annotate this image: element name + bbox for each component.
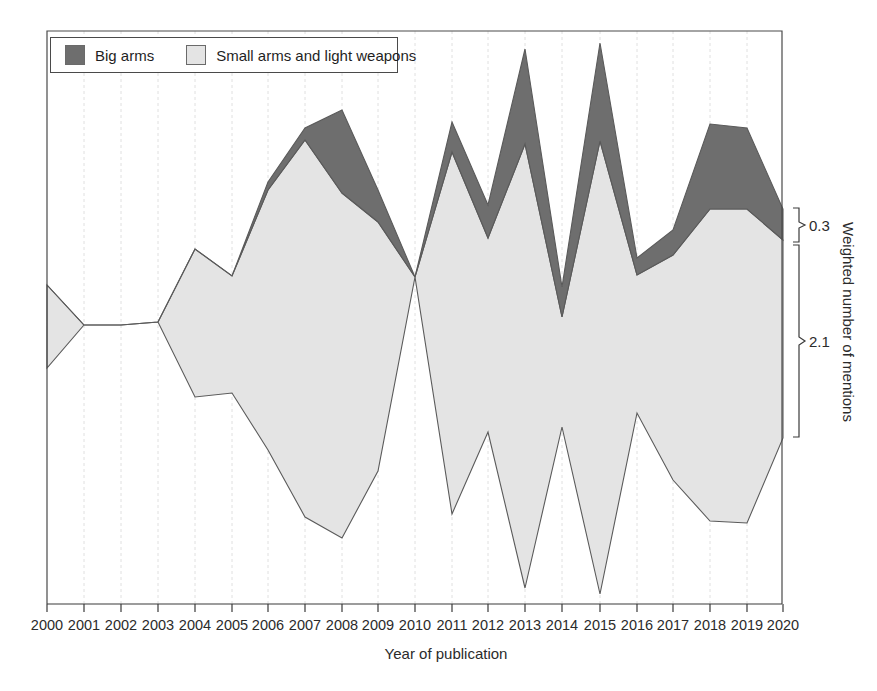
chart-legend: Big arms Small arms and light weapons bbox=[50, 37, 398, 73]
legend-swatch-big-arms bbox=[65, 45, 85, 65]
x-axis-tick-label: 2019 bbox=[731, 617, 763, 633]
x-axis-tick-label: 2000 bbox=[31, 617, 63, 633]
legend-label-small-arms-and-light-weapons: Small arms and light weapons bbox=[216, 47, 416, 64]
y-axis-title: Weighted number of mentions bbox=[840, 222, 857, 422]
x-axis-tick-label: 2002 bbox=[105, 617, 137, 633]
streamgraph-chart: 2000200120022003200420052006200720082009… bbox=[0, 0, 877, 691]
x-axis-tick-label: 2003 bbox=[142, 617, 174, 633]
x-axis-tick-label: 2014 bbox=[546, 617, 578, 633]
x-axis-tick-label: 2005 bbox=[216, 617, 248, 633]
chart-canvas: 2000200120022003200420052006200720082009… bbox=[0, 0, 877, 691]
x-axis-tick-label: 2013 bbox=[509, 617, 541, 633]
x-axis-tick-label: 2017 bbox=[657, 617, 689, 633]
legend-swatch-small-arms-and-light-weapons bbox=[186, 45, 206, 65]
legend-item-small-arms-and-light-weapons: Small arms and light weapons bbox=[186, 38, 416, 72]
x-axis-ticks bbox=[47, 604, 783, 612]
x-axis-tick-label: 2008 bbox=[326, 617, 358, 633]
x-axis-tick-label: 2006 bbox=[252, 617, 284, 633]
x-axis-tick-label: 2016 bbox=[621, 617, 653, 633]
x-axis-tick-label: 2004 bbox=[179, 617, 211, 633]
legend-item-big-arms: Big arms bbox=[65, 38, 154, 72]
brace-lower-label: 2.1 bbox=[809, 333, 830, 350]
brace-upper: 0.3 bbox=[793, 208, 830, 242]
x-axis-tick-label: 2012 bbox=[472, 617, 504, 633]
x-axis-tick-label: 2009 bbox=[362, 617, 394, 633]
brace-lower: 2.1 bbox=[793, 245, 830, 437]
brace-upper-label: 0.3 bbox=[809, 217, 830, 234]
legend-label-big-arms: Big arms bbox=[95, 47, 154, 64]
x-axis-tick-label: 2018 bbox=[694, 617, 726, 633]
x-axis-tick-label: 2001 bbox=[68, 617, 100, 633]
x-axis-tick-label: 2007 bbox=[289, 617, 321, 633]
x-axis-tick-labels: 2000200120022003200420052006200720082009… bbox=[31, 617, 799, 633]
x-axis-tick-label: 2015 bbox=[584, 617, 616, 633]
x-axis-title: Year of publication bbox=[385, 645, 508, 662]
x-axis-tick-label: 2010 bbox=[399, 617, 431, 633]
x-axis-tick-label: 2011 bbox=[436, 617, 467, 633]
x-axis-tick-label: 2020 bbox=[767, 617, 799, 633]
